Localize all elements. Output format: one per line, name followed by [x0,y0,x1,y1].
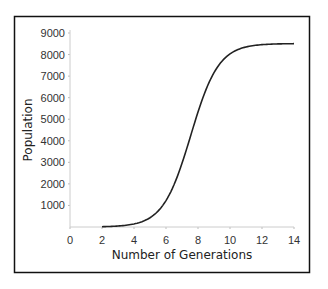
x-tick-label: 12 [256,234,268,246]
y-tick-label: 8000 [41,49,65,61]
population-growth-chart: 100020003000400050006000700080009000 024… [0,0,328,289]
x-tick-label: 6 [163,234,169,246]
x-tick-label: 0 [67,234,73,246]
y-tick-label: 4000 [41,135,65,147]
y-tick-label: 6000 [41,92,65,104]
y-tick-label: 9000 [41,27,65,39]
y-tick-label: 3000 [41,156,65,168]
x-tick-label: 2 [99,234,105,246]
y-tick-label: 1000 [41,199,65,211]
y-tick-label: 5000 [41,113,65,125]
y-tick-label: 2000 [41,178,65,190]
x-tick-label: 8 [195,234,201,246]
x-tick-label: 14 [288,234,300,246]
y-axis-label: Population [21,98,35,161]
x-axis-label: Number of Generations [112,248,253,262]
x-tick-label: 4 [131,234,137,246]
y-tick-label: 7000 [41,70,65,82]
x-tick-label: 10 [224,234,236,246]
